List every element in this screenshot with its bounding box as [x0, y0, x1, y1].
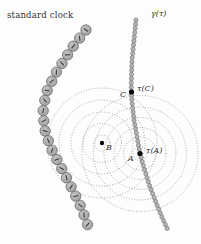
gamma-bead: [134, 131, 138, 135]
gamma-bead: [140, 160, 144, 164]
gamma-bead: [137, 147, 141, 151]
tau-C-label: τ(C): [137, 85, 154, 93]
gamma-bead: [129, 72, 133, 76]
gamma-bead: [133, 22, 137, 26]
event-dot-B: [100, 141, 104, 145]
gamma-bead: [133, 127, 137, 131]
gamma-bead: [158, 211, 162, 215]
gamma-bead: [130, 102, 134, 106]
gamma-bead: [130, 97, 134, 101]
gamma-bead: [131, 43, 135, 47]
gamma-bead: [133, 26, 137, 30]
event-dot-C: [129, 89, 134, 94]
gamma-bead: [144, 172, 148, 176]
clock-bead-hand: [79, 36, 80, 40]
event-A-label: A: [128, 155, 134, 163]
gamma-bead: [157, 207, 161, 211]
gamma-bead: [132, 35, 136, 39]
gamma-bead: [133, 30, 137, 34]
event-B-label: B: [106, 144, 112, 152]
gamma-bead: [142, 168, 146, 172]
gamma-bead: [129, 81, 133, 85]
gamma-bead: [145, 176, 149, 180]
gamma-bead: [136, 143, 140, 147]
gamma-bead: [160, 215, 164, 219]
gamma-bead: [134, 18, 138, 22]
gamma-bead: [136, 139, 140, 143]
gamma-bead: [132, 39, 136, 43]
gamma-bead: [130, 60, 134, 64]
standard-clock-label: standard clock: [7, 11, 73, 20]
diagram-svg: [0, 0, 201, 244]
gamma-bead: [163, 223, 167, 227]
gamma-bead: [132, 118, 136, 122]
gamma-bead: [131, 51, 135, 55]
gamma-bead: [155, 203, 159, 207]
gamma-curve-label: γ(τ): [151, 10, 166, 18]
gamma-bead: [129, 85, 133, 89]
gamma-bead: [141, 164, 145, 168]
event-dot-A: [137, 151, 142, 156]
gamma-bead: [131, 110, 135, 114]
gamma-bead: [152, 195, 156, 199]
gamma-bead: [150, 191, 154, 195]
clock-bead-hand: [74, 196, 78, 197]
clock-bead-hand: [45, 90, 49, 91]
gamma-bead: [162, 219, 166, 223]
gamma-bead: [131, 47, 135, 51]
gamma-bead: [146, 180, 150, 184]
tau-A-label: τ(A): [146, 147, 162, 155]
gamma-bead: [148, 184, 152, 188]
gamma-bead: [135, 135, 139, 139]
figure-canvas: standard clock γ(τ) C τ(C) B A τ(A): [0, 0, 201, 244]
gamma-bead: [129, 76, 133, 80]
event-C-label: C: [120, 91, 126, 99]
gamma-bead: [139, 155, 143, 159]
gamma-bead: [130, 64, 134, 68]
gamma-bead: [133, 122, 137, 126]
gamma-bead: [153, 199, 157, 203]
gamma-bead: [165, 226, 169, 230]
gamma-bead: [149, 188, 153, 192]
gamma-bead: [130, 56, 134, 60]
gamma-bead: [130, 68, 134, 72]
gamma-bead: [131, 106, 135, 110]
gamma-bead: [131, 114, 135, 118]
